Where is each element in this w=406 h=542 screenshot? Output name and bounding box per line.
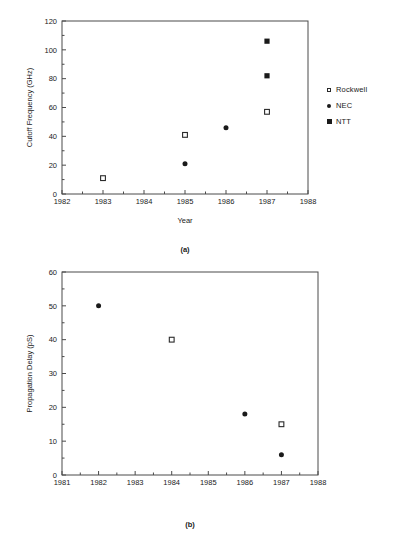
x-tick-label: 1983 (127, 478, 144, 487)
legend-label: NEC (336, 101, 352, 110)
y-tick-label: 40 (49, 335, 57, 344)
x-tick-label: 1986 (237, 478, 254, 487)
x-tick-label: 1986 (218, 197, 235, 206)
x-tick-label: 1983 (95, 197, 112, 206)
y-tick-label: 80 (49, 74, 57, 83)
scatter-plot-b: 1981198219831984198519861987198801020304… (0, 265, 406, 542)
open-square-icon (327, 88, 331, 92)
y-tick-label: 0 (53, 471, 57, 480)
y-tick-label: 50 (49, 302, 57, 311)
scatter-plot-a: 1982198319841985198619871988020406080100… (0, 0, 406, 271)
y-axis-title: Cutoff Frequency (GHz) (25, 67, 34, 147)
data-point-ntt (279, 452, 284, 457)
data-point-ntt (264, 39, 269, 44)
legend-marker-icon (322, 119, 336, 124)
legend-marker-icon (322, 104, 336, 108)
x-tick-label: 1984 (136, 197, 153, 206)
x-tick-label: 1985 (177, 197, 194, 206)
x-tick-label: 1987 (273, 478, 290, 487)
panel-caption: (b) (185, 520, 195, 529)
panel-caption: (a) (180, 245, 190, 254)
data-point-ntt (264, 73, 269, 78)
y-tick-label: 10 (49, 437, 57, 446)
x-tick-label: 1982 (90, 478, 107, 487)
y-tick-label: 20 (49, 161, 57, 170)
legend-label: Rockwell (336, 85, 367, 94)
data-point-nec (224, 125, 229, 130)
data-point-rockwell (101, 176, 106, 181)
data-point-rockwell (279, 422, 284, 427)
y-tick-label: 20 (49, 403, 57, 412)
data-point-ntt (96, 303, 101, 308)
data-point-rockwell (169, 337, 174, 342)
data-point-rockwell (183, 132, 188, 137)
x-tick-label: 1984 (163, 478, 180, 487)
legend-item-ntt: NTT (322, 117, 367, 126)
x-axis-title: Year (177, 216, 193, 225)
plot-frame (62, 272, 318, 475)
x-tick-label: 1985 (200, 478, 217, 487)
legend-marker-icon (322, 88, 336, 92)
data-point-nec (183, 161, 188, 166)
x-tick-label: 1987 (259, 197, 276, 206)
legend-a: RockwellNECNTT (322, 85, 367, 126)
data-point-rockwell (265, 109, 270, 114)
y-tick-label: 30 (49, 369, 57, 378)
legend-item-rockwell: Rockwell (322, 85, 367, 94)
filled-circle-icon (327, 104, 331, 108)
legend-label: NTT (336, 117, 351, 126)
figure-panel-b: 1981198219831984198519861987198801020304… (0, 265, 406, 542)
plot-frame (62, 21, 308, 194)
data-point-ntt (242, 412, 247, 417)
filled-square-icon (327, 119, 332, 124)
x-tick-label: 1988 (310, 478, 327, 487)
x-tick-label: 1988 (300, 197, 317, 206)
y-tick-label: 40 (49, 132, 57, 141)
figure-panel-a: 1982198319841985198619871988020406080100… (0, 0, 406, 271)
y-tick-label: 60 (49, 103, 57, 112)
y-axis-title: Propagation Delay (pS) (25, 334, 34, 412)
legend-item-nec: NEC (322, 101, 367, 110)
y-tick-label: 0 (53, 190, 57, 199)
y-tick-label: 60 (49, 268, 57, 277)
y-tick-label: 100 (44, 46, 57, 55)
y-tick-label: 120 (44, 17, 57, 26)
